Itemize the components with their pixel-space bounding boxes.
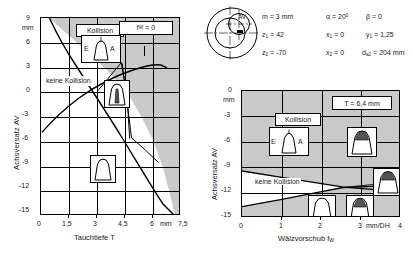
right-xtick-3: 3 — [358, 222, 362, 229]
param-y1-sub: 1 — [370, 34, 373, 39]
left-fw-sub: W — [139, 25, 143, 30]
right-x-axis-title: Wälzvorschub fW — [278, 234, 334, 243]
left-fw-annotation: fW = 0 — [119, 21, 173, 35]
right-y-axis-title: Achsversatz AV — [210, 148, 219, 200]
param-alpha: α = 200 — [326, 13, 348, 20]
left-ytick-m15: -15 — [19, 206, 29, 213]
param-alpha-sup: 0 — [346, 13, 349, 18]
left-callout-leader — [144, 46, 145, 56]
param-z2-val: = -70 — [270, 49, 286, 56]
left-xtick-15: 1,5 — [62, 220, 72, 227]
param-beta-sym: β — [366, 13, 370, 20]
left-xtick-mark-3 — [124, 215, 125, 218]
param-x2: x2 = 0 — [326, 49, 344, 57]
right-region-label-no-collision: keine Kollision — [254, 178, 301, 185]
param-y1-val: = 1,25 — [374, 31, 394, 38]
left-ytick-6: 6 — [26, 38, 30, 45]
param-z1: z1 = 42 — [262, 31, 284, 39]
left-ytick-3: 3 — [26, 62, 30, 69]
right-inset-tooth-top-right — [347, 127, 377, 157]
left-xtick-0: 0 — [37, 220, 41, 227]
right-xtick-mark-3 — [360, 217, 361, 220]
param-x1-val: = 0 — [334, 31, 344, 38]
left-y-axis-title: Achsversatz AV — [12, 115, 21, 170]
param-alpha-sym: α — [326, 13, 330, 20]
right-collision-text: Kollision — [285, 116, 311, 123]
param-x1: x1 = 0 — [326, 31, 344, 39]
right-ytick-m9: -9 — [224, 161, 230, 168]
param-x2-sub: 2 — [330, 52, 333, 57]
right-ytick-m15: -15 — [221, 211, 231, 218]
right-inset-tooth-bottom-mid — [308, 195, 336, 217]
left-xtick-3: 3 — [93, 220, 97, 227]
left-ytick-m3: -3 — [22, 110, 28, 117]
left-xtick-mark-1 — [68, 215, 69, 218]
param-da2-val: = 204 mm — [373, 49, 404, 56]
param-m: m = 3 mm — [262, 13, 293, 20]
right-ytick-m6: -6 — [224, 136, 230, 143]
left-xtick-6: 6 — [150, 220, 154, 227]
left-xtick-mark-4 — [152, 215, 153, 218]
left-inset-tooth-low — [90, 155, 116, 183]
param-da2: da2 = 204 mm — [362, 49, 404, 57]
gear-sketch-av-label: AV — [238, 13, 246, 20]
right-xtick-mark-1 — [281, 217, 282, 220]
param-z1-sub: 1 — [266, 34, 269, 39]
param-z2-sub: 2 — [266, 52, 269, 57]
right-x-axis-title-main: Wälzvorschub f — [278, 234, 329, 243]
right-xtick-0: 0 — [239, 222, 243, 229]
left-ytick-9: 9 — [26, 14, 30, 21]
left-ytick-m12: -12 — [19, 182, 29, 189]
left-x-axis-title: Tauchtiefe T — [74, 233, 115, 242]
param-m-sym: m — [262, 13, 268, 20]
right-ytick-m3: -3 — [224, 111, 230, 118]
param-m-val: = 3 mm — [270, 13, 294, 20]
right-collision-callout: Kollision — [275, 113, 321, 126]
right-x-axis-title-sub: W — [329, 237, 334, 243]
left-region-label-no-collision: keine Kollision — [46, 76, 91, 86]
right-xtick-1: 1 — [279, 222, 283, 229]
param-alpha-val: = 20 — [332, 13, 346, 20]
gear-pair-sketch — [202, 2, 264, 64]
param-beta-val: = 0 — [372, 13, 382, 20]
left-no-collision-text: keine Kollision — [46, 77, 91, 84]
right-inset-tooth-bottom-right — [346, 195, 374, 217]
right-inset-label-A: A — [298, 138, 303, 145]
left-fw-val: = 0 — [145, 24, 155, 31]
right-inset-tooth-EA: E A — [269, 127, 309, 156]
right-xtick-2: 2 — [318, 222, 322, 229]
left-inset-label-A: A — [110, 45, 115, 52]
left-x-unit: mm — [160, 220, 172, 227]
right-ytick-m12: -12 — [221, 186, 231, 193]
right-y-unit: mm — [223, 96, 235, 103]
param-x2-val: = 0 — [334, 49, 344, 56]
right-T-annotation: T = 6,4 mm — [332, 96, 392, 110]
left-ytick-m6: -6 — [22, 134, 28, 141]
param-z1-val: = 42 — [270, 31, 284, 38]
param-z2: z2 = -70 — [262, 49, 286, 57]
left-xtick-mark-2 — [96, 215, 97, 218]
left-xtick-45: 4,5 — [118, 220, 128, 227]
left-xtick-75: 7,5 — [178, 220, 188, 227]
figure-root: Achsversatz AV 9 mm 6 3 0 -3 -6 -9 -12 -… — [0, 0, 413, 255]
right-x-unit: mm/DH — [366, 222, 390, 229]
left-plot-area: keine Kollision Kollision E A — [40, 17, 180, 215]
right-inset-label-E: E — [271, 138, 276, 145]
param-x1-sub: 1 — [330, 34, 333, 39]
right-inset-tooth-side-right — [373, 168, 400, 196]
param-da2-sub: a2 — [366, 52, 371, 57]
right-ytick-0: 0 — [228, 86, 232, 93]
left-ytick-0: 0 — [26, 86, 30, 93]
left-collision-text: Kollision — [87, 27, 113, 34]
param-y1: y1 = 1,25 — [366, 31, 394, 39]
left-ytick-m9: -9 — [22, 158, 28, 165]
left-y-unit: mm — [22, 24, 34, 31]
right-xtick-mark-2 — [320, 217, 321, 220]
right-no-collision-text: keine Kollision — [255, 178, 300, 185]
param-beta: β = 0 — [366, 13, 382, 20]
right-plot-area: Kollision E A keine Kollision — [241, 90, 400, 217]
left-inset-tooth-EA: E A — [81, 35, 121, 63]
right-xtick-4: 4 — [398, 222, 402, 229]
left-inset-tooth-mid — [104, 80, 130, 108]
left-inset-label-E: E — [84, 45, 89, 52]
